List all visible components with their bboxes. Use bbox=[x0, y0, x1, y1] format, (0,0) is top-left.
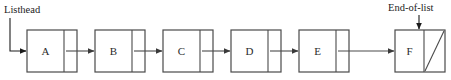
node-f-label: F bbox=[406, 45, 412, 57]
node-c-label: C bbox=[178, 45, 185, 57]
list-node: D bbox=[231, 30, 298, 72]
node-f-box bbox=[395, 30, 445, 72]
end-of-list-label: End-of-list bbox=[388, 2, 434, 13]
list-node: A bbox=[27, 30, 94, 72]
node-d-label: D bbox=[246, 45, 254, 57]
listhead-label: Listhead bbox=[4, 4, 41, 15]
linked-list-diagram: Listhead End-of-list A B C bbox=[0, 0, 451, 80]
list-node: F bbox=[395, 30, 445, 72]
listhead-connector bbox=[10, 18, 20, 51]
list-node: C bbox=[163, 30, 230, 72]
list-node: B bbox=[95, 30, 162, 72]
node-e-label: E bbox=[314, 45, 321, 57]
end-of-list-annotation: End-of-list bbox=[388, 2, 434, 29]
node-b-label: B bbox=[110, 45, 117, 57]
node-a-label: A bbox=[42, 45, 50, 57]
list-node: E bbox=[299, 30, 394, 72]
